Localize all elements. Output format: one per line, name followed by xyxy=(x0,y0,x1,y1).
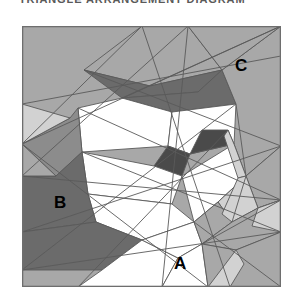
diagram-canvas: A B C xyxy=(22,26,281,287)
region-label-c: C xyxy=(235,56,247,75)
page-root: TRIANGLE ARRANGEMENT DIAGRAM xyxy=(0,0,302,301)
diagram-figure: A B C xyxy=(22,26,281,287)
region-label-a: A xyxy=(174,254,186,273)
diagram-title-strip: TRIANGLE ARRANGEMENT DIAGRAM xyxy=(0,0,302,8)
page-title: TRIANGLE ARRANGEMENT DIAGRAM xyxy=(19,0,245,5)
region-label-b: B xyxy=(54,193,66,212)
